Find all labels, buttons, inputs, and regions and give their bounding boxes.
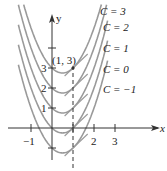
y-tick-label-1: 1 <box>41 102 47 114</box>
curve-label-c2: C = 2 <box>103 21 129 33</box>
curve-label-cm1: C = −1 <box>103 83 136 95</box>
y-axis-label: y <box>56 12 62 24</box>
point-marker <box>71 66 74 69</box>
y-tick-label-2: 2 <box>41 82 47 94</box>
curve-label-c1: C = 1 <box>103 42 129 54</box>
antiderivative-family-diagram: y x (1, 3) −1 2 3 1 2 3 C = 3 C = 2 C = … <box>0 0 167 171</box>
curve-label-c0: C = 0 <box>103 63 129 75</box>
y-tick-label-3: 3 <box>41 62 47 74</box>
tangent-lines <box>65 54 88 156</box>
x-tick-label-neg1: −1 <box>23 135 35 147</box>
parabola-curve <box>18 5 106 93</box>
tangent-line <box>65 134 88 156</box>
x-tick-label-2: 2 <box>91 135 97 147</box>
parabola-curve <box>18 21 107 113</box>
x-axis-label: x <box>159 122 165 134</box>
curve-label-c3: C = 3 <box>100 5 126 17</box>
x-tick-label-3: 3 <box>112 135 118 147</box>
point-label: (1, 3) <box>52 54 76 67</box>
